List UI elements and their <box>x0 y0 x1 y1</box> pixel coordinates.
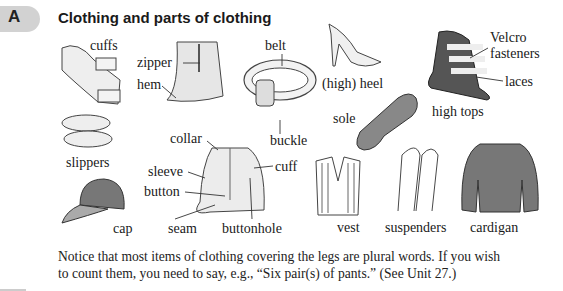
note-paragraph: Notice that most items of clothing cover… <box>58 248 558 282</box>
note-line-2: to count them, you need to say, e.g., “S… <box>58 265 558 282</box>
note-line-1: Notice that most items of clothing cover… <box>58 248 558 265</box>
